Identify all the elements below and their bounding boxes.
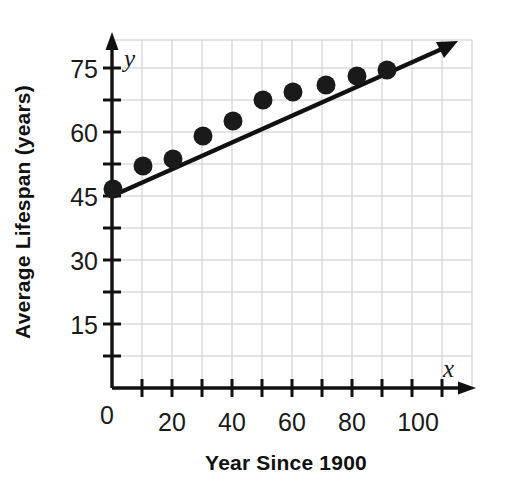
x-tick-labels: 0 20 40 60 80 100 (100, 401, 439, 436)
x-tick-label-80: 80 (338, 408, 366, 436)
data-point (134, 157, 153, 176)
x-tick-label-60: 60 (278, 408, 306, 436)
data-points (104, 61, 397, 199)
y-tick-labels: 75 60 45 30 15 (70, 55, 98, 339)
x-axis-variable-label: x (442, 355, 454, 382)
y-tick-label-45: 45 (70, 183, 98, 211)
scatter-plot-svg: 75 60 45 30 15 0 20 40 60 80 100 y x Yea… (0, 0, 506, 502)
y-tick-label-60: 60 (70, 119, 98, 147)
x-axis-title: Year Since 1900 (205, 451, 367, 474)
data-point (104, 180, 123, 199)
y-axis-title: Average Lifespan (years) (11, 85, 34, 339)
x-axis-arrowhead (458, 382, 476, 395)
data-point (317, 76, 336, 95)
y-axis-variable-label: y (121, 45, 136, 72)
x-tick-label-0: 0 (100, 401, 114, 429)
y-axis-arrowhead (106, 32, 119, 50)
y-tick-label-15: 15 (70, 311, 98, 339)
x-tick-label-20: 20 (158, 408, 186, 436)
data-point (224, 112, 243, 131)
data-point (194, 127, 213, 146)
data-point (378, 61, 397, 80)
x-tick-label-40: 40 (218, 408, 246, 436)
x-tick-label-100: 100 (397, 408, 439, 436)
chart-container: 75 60 45 30 15 0 20 40 60 80 100 y x Yea… (0, 0, 506, 502)
data-point (254, 91, 273, 110)
y-tick-label-75: 75 (70, 55, 98, 83)
trend-line (112, 41, 458, 196)
data-point (164, 150, 183, 169)
y-tick-label-30: 30 (70, 247, 98, 275)
data-point (348, 67, 367, 86)
data-point (284, 83, 303, 102)
